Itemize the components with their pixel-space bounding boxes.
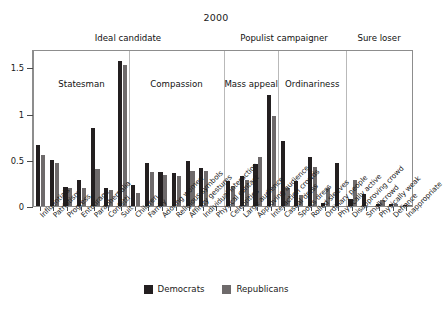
supergroup-label: Sure loser bbox=[357, 33, 400, 43]
bar bbox=[91, 128, 95, 207]
chart-title: 2000 bbox=[0, 12, 432, 23]
bar bbox=[136, 193, 140, 206]
legend-item: Democrats bbox=[144, 284, 205, 294]
group-label: Mass appeal bbox=[224, 79, 277, 89]
y-tick-label: 0 bbox=[19, 202, 24, 212]
supergroup-label: Ideal candidate bbox=[95, 33, 161, 43]
y-tick: 0 bbox=[27, 207, 33, 208]
legend-label: Republicans bbox=[236, 284, 288, 294]
y-tick-label: 0.5 bbox=[11, 156, 24, 166]
group-label: Ordinariness bbox=[285, 79, 339, 89]
bar bbox=[41, 155, 45, 206]
legend-item: Republicans bbox=[222, 284, 288, 294]
group-label: Statesman bbox=[58, 79, 104, 89]
bar bbox=[36, 145, 40, 206]
legend-label: Democrats bbox=[158, 284, 205, 294]
chart-legend: DemocratsRepublicans bbox=[0, 284, 432, 294]
legend-swatch bbox=[144, 285, 153, 294]
y-tick-label: 1.5 bbox=[11, 63, 24, 73]
supergroup-label: Populist campaigner bbox=[240, 33, 328, 43]
group-label: Compassion bbox=[150, 79, 202, 89]
legend-swatch bbox=[222, 285, 231, 294]
y-tick-label: 1 bbox=[19, 110, 24, 120]
bar bbox=[131, 185, 135, 206]
